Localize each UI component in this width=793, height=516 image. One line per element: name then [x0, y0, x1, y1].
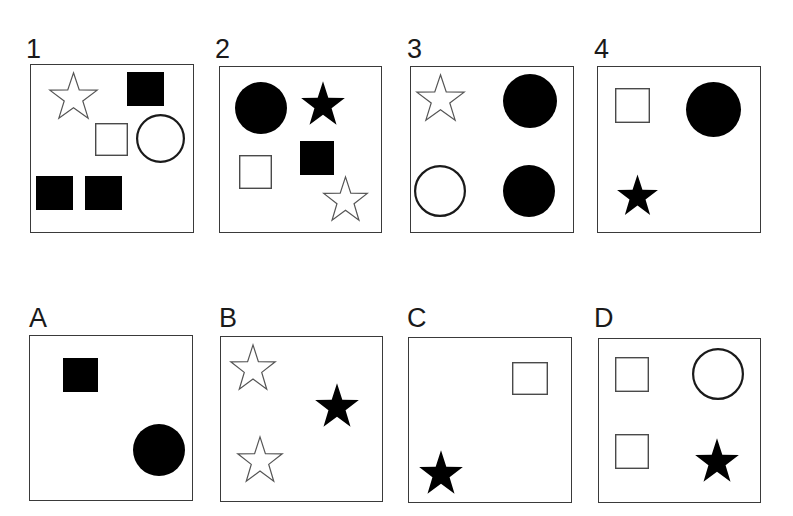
open-circle-shape — [692, 348, 744, 400]
analogy-puzzle-figure: 1234ABCD — [0, 0, 793, 516]
filled-star-shape — [694, 440, 740, 483]
panel-box-a[interactable] — [29, 335, 193, 501]
open-star-shape — [236, 438, 284, 483]
panel-label-d: D — [594, 305, 614, 332]
filled-circle-shape — [133, 424, 185, 476]
panel-label-a: A — [29, 305, 47, 332]
answer-row: ABCD — [0, 0, 793, 516]
open-star-shape — [229, 346, 277, 391]
open-square-shape — [615, 357, 649, 392]
filled-star-shape — [314, 385, 360, 428]
filled-star-shape — [418, 452, 464, 495]
open-square-shape — [615, 434, 649, 469]
open-square-shape — [512, 362, 548, 395]
panel-label-b: B — [219, 305, 237, 332]
filled-square-shape — [63, 358, 98, 392]
panel-label-c: C — [407, 305, 427, 332]
